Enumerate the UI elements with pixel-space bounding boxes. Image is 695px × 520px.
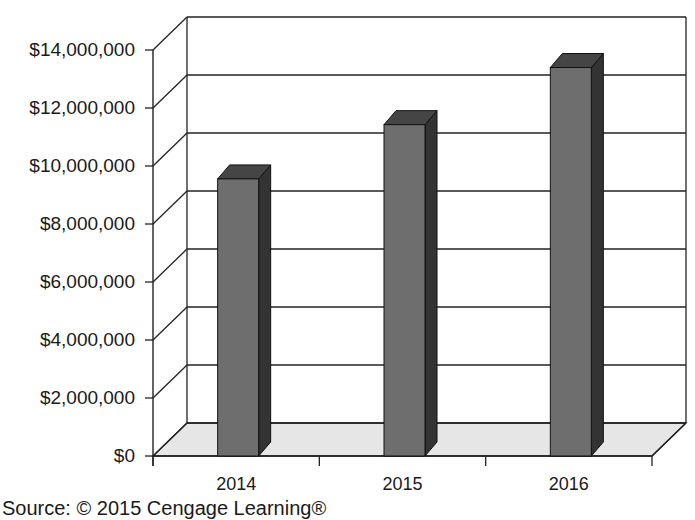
side-gridline bbox=[153, 133, 187, 166]
x-tick-label: 2014 bbox=[196, 474, 276, 495]
side-gridline bbox=[153, 365, 187, 398]
side-gridline bbox=[153, 17, 187, 50]
bar-2016 bbox=[550, 68, 591, 456]
y-tick-label: $8,000,000 bbox=[40, 214, 135, 234]
bar-side-2016 bbox=[591, 54, 603, 456]
y-tick-label: $4,000,000 bbox=[40, 330, 135, 350]
bar-2015 bbox=[384, 125, 425, 456]
side-gridline bbox=[153, 191, 187, 224]
y-tick-label: $12,000,000 bbox=[29, 98, 135, 118]
bar-2014 bbox=[218, 179, 259, 456]
side-gridline bbox=[153, 307, 187, 340]
side-gridline bbox=[153, 249, 187, 282]
x-tick-label: 2016 bbox=[529, 474, 609, 495]
y-tick-label: $14,000,000 bbox=[29, 40, 135, 60]
side-gridline bbox=[153, 75, 187, 108]
y-tick-label: $0 bbox=[114, 446, 135, 466]
source-note: Source: © 2015 Cengage Learning® bbox=[2, 497, 326, 520]
bar-side-2014 bbox=[259, 165, 271, 456]
x-tick-label: 2015 bbox=[363, 474, 443, 495]
bar-side-2015 bbox=[425, 111, 437, 456]
y-tick-label: $2,000,000 bbox=[40, 388, 135, 408]
y-tick-label: $10,000,000 bbox=[29, 156, 135, 176]
y-tick-label: $6,000,000 bbox=[40, 272, 135, 292]
